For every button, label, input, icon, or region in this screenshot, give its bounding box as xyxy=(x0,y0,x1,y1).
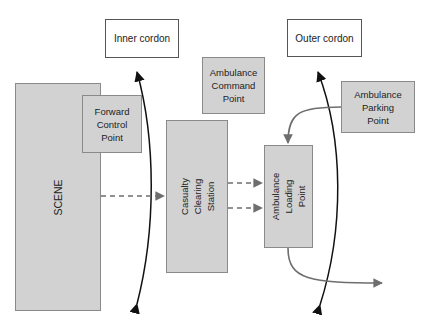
ccs-label: Casualty Clearing Station xyxy=(178,178,217,215)
forward-control-point-box: Forward Control Point xyxy=(82,95,142,153)
inner-cordon-label: Inner cordon xyxy=(114,32,170,45)
fcp-line-1: Forward xyxy=(95,105,130,118)
ambulance-loading-point-box: Ambulance Loading Point xyxy=(264,145,313,248)
ccs-line-2: Clearing xyxy=(191,178,204,215)
fcp-line-2: Control xyxy=(95,118,130,131)
acp-line-3: Point xyxy=(210,92,258,105)
loading-exit-arrow xyxy=(288,248,382,283)
ccs-line-1: Casualty xyxy=(178,178,191,215)
ambulance-command-point-box: Ambulance Command Point xyxy=(202,57,265,114)
ccs-line-3: Station xyxy=(204,178,217,215)
alp-label: Ambulance Loading Point xyxy=(269,173,308,221)
acp-line-1: Ambulance xyxy=(210,66,258,79)
outer-cordon-label-box: Outer cordon xyxy=(287,19,362,57)
alp-line-1: Ambulance xyxy=(269,173,282,221)
app-line-3: Point xyxy=(354,114,402,127)
ambulance-parking-point-box: Ambulance Parking Point xyxy=(341,81,415,133)
app-line-1: Ambulance xyxy=(354,88,402,101)
alp-line-2: Loading xyxy=(282,173,295,221)
acp-line-2: Command xyxy=(210,79,258,92)
fcp-line-3: Point xyxy=(95,131,130,144)
scene-label: SCENE xyxy=(52,179,65,215)
outer-cordon-label: Outer cordon xyxy=(295,32,353,45)
alp-line-3: Point xyxy=(295,173,308,221)
inner-cordon-label-box: Inner cordon xyxy=(105,19,179,58)
app-line-2: Parking xyxy=(354,101,402,114)
casualty-clearing-station-box: Casualty Clearing Station xyxy=(166,120,228,273)
